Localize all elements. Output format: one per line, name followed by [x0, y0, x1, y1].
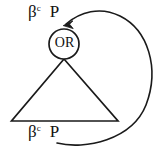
bottom-label-beta: β [28, 122, 37, 141]
top-label-p: P [50, 2, 59, 21]
diagram-canvas: OR βcP βcP [0, 0, 164, 163]
subtree-triangle [12, 59, 119, 121]
diagram-vector-layer [0, 0, 164, 163]
top-label-beta: β [28, 2, 37, 21]
bottom-label-p: P [50, 122, 59, 141]
bottom-label-superscript: c [37, 123, 41, 133]
top-label-superscript: c [37, 3, 41, 13]
bottom-label: βcP [28, 123, 59, 140]
or-node-label: OR [49, 35, 80, 51]
top-label: βcP [28, 3, 59, 20]
